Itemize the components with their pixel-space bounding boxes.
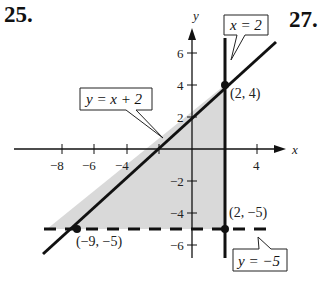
y-axis-label: y [191,8,199,23]
callout-x-equals-2: x = 2 [224,15,268,60]
y-tick-label: −4 [170,206,184,221]
x-tick-label: −8 [50,158,64,173]
point-2-4 [221,81,229,89]
point-2-minus-5 [221,225,229,233]
y-tick-label: −2 [170,174,184,189]
y-tick-label: 2 [177,110,184,125]
y-tick-label: −6 [170,238,184,253]
y-tick-label: 4 [177,78,184,93]
x-tick-label: 4 [253,158,260,173]
x-tick-label: −6 [82,158,96,173]
graph: x y −8 −6 −4 4 6 4 2 −2 −4 −6 (2, 4) [0,0,331,289]
svg-text:y = x + 2: y = x + 2 [84,91,143,107]
y-axis-arrow-icon [188,28,196,40]
x-tick-label: −4 [115,158,129,173]
point-minus-9-minus-5 [73,225,81,233]
svg-text:x = 2: x = 2 [229,17,262,33]
point-label-minus-9-minus-5: (−9, −5) [76,234,122,250]
y-tick-label: 6 [177,46,184,61]
x-axis-label: x [291,142,298,157]
x-axis-arrow-icon [274,145,286,153]
svg-text:y = −5: y = −5 [236,253,280,269]
callout-y-equals-minus-5: y = −5 [233,237,287,271]
point-label-2-minus-5: (2, −5) [229,205,268,221]
callout-y-equals-x-plus-2: y = x + 2 [80,88,163,138]
point-label-2-4: (2, 4) [230,86,261,102]
